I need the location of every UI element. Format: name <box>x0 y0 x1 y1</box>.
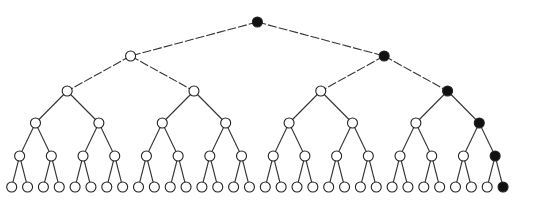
leaf-node <box>102 182 112 192</box>
highlighted-tree-node <box>490 151 500 161</box>
tree-edge <box>194 91 226 123</box>
leaf-node <box>70 182 80 192</box>
highlighted-tree-node <box>379 51 389 61</box>
tree-node <box>94 118 104 128</box>
leaf-node <box>260 182 270 192</box>
tree-node <box>458 151 468 161</box>
tree-edge <box>131 56 194 91</box>
tree-node <box>173 151 183 161</box>
leaf-node <box>118 182 128 192</box>
leaf-node <box>149 182 159 192</box>
tree-edge <box>416 91 448 123</box>
tree-nodes <box>7 17 508 192</box>
tree-node <box>363 151 373 161</box>
leaf-node <box>276 182 286 192</box>
highlighted-tree-node <box>252 17 262 27</box>
tree-edge <box>131 22 258 56</box>
highlighted-tree-node <box>498 182 508 192</box>
tree-node <box>141 151 151 161</box>
tree-node <box>62 86 72 96</box>
tree-node <box>205 151 215 161</box>
tree-node <box>30 118 40 128</box>
tree-node <box>268 151 278 161</box>
leaf-node <box>435 182 445 192</box>
tree-node <box>411 118 421 128</box>
tree-node <box>237 151 247 161</box>
tree-node <box>15 151 25 161</box>
tree-node <box>332 151 342 161</box>
highlighted-tree-node <box>443 86 453 96</box>
leaf-node <box>451 182 461 192</box>
leaf-node <box>134 182 144 192</box>
tree-edge <box>321 56 384 91</box>
tree-node <box>221 118 231 128</box>
leaf-node <box>292 182 302 192</box>
leaf-node <box>419 182 429 192</box>
leaf-node <box>340 182 350 192</box>
leaf-node <box>308 182 318 192</box>
leaf-node <box>324 182 334 192</box>
tree-edge <box>384 56 447 91</box>
leaf-node <box>181 182 191 192</box>
leaf-node <box>355 182 365 192</box>
tree-edge <box>448 91 480 123</box>
leaf-node <box>197 182 207 192</box>
tree-node <box>284 118 294 128</box>
leaf-node <box>244 182 254 192</box>
leaf-node <box>403 182 413 192</box>
tree-node <box>126 51 136 61</box>
highlighted-tree-node <box>474 118 484 128</box>
tree-node <box>347 118 357 128</box>
tree-edge <box>67 56 130 91</box>
leaf-node <box>482 182 492 192</box>
tree-edges <box>12 22 503 187</box>
tree-node <box>427 151 437 161</box>
leaf-node <box>371 182 381 192</box>
leaf-node <box>23 182 33 192</box>
tree-node <box>395 151 405 161</box>
leaf-node <box>213 182 223 192</box>
tree-node <box>157 118 167 128</box>
tree-edge <box>67 91 99 123</box>
leaf-node <box>387 182 397 192</box>
tree-node <box>189 86 199 96</box>
leaf-node <box>86 182 96 192</box>
leaf-node <box>38 182 48 192</box>
tree-edge <box>162 91 194 123</box>
leaf-node <box>7 182 17 192</box>
tree-node <box>110 151 120 161</box>
tree-edge <box>321 91 353 123</box>
tree-node <box>46 151 56 161</box>
leaf-node <box>466 182 476 192</box>
binary-tree-diagram <box>0 0 538 209</box>
tree-edge <box>35 91 67 123</box>
leaf-node <box>229 182 239 192</box>
tree-edge <box>257 22 384 56</box>
tree-edge <box>289 91 321 123</box>
leaf-node <box>165 182 175 192</box>
leaf-node <box>54 182 64 192</box>
tree-node <box>78 151 88 161</box>
tree-node <box>316 86 326 96</box>
tree-node <box>300 151 310 161</box>
